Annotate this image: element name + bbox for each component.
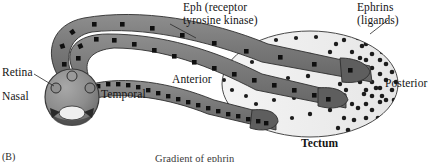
temporal-label: Temporal: [101, 88, 146, 101]
gradient-of-ephrin-caption: Gradient of ephrin: [155, 153, 234, 162]
tectum-label: Tectum: [301, 137, 338, 150]
ephrins-label-line1: Ephrins: [357, 1, 393, 14]
anterior-label: Anterior: [172, 73, 212, 86]
nasal-label: Nasal: [2, 90, 29, 103]
retina-label: Retina: [2, 66, 33, 79]
ephrins-label-line2: (ligands): [357, 14, 399, 27]
retinotectal-map-figure: Eph (receptor tyrosine kinase) Ephrins (…: [0, 0, 440, 162]
posterior-label: Posterior: [385, 77, 427, 90]
eph-receptor-label-line1: Eph (receptor: [183, 1, 247, 14]
panel-letter-b: (B): [2, 151, 15, 162]
eph-receptor-label-line2: tyrosine kinase): [183, 14, 258, 27]
